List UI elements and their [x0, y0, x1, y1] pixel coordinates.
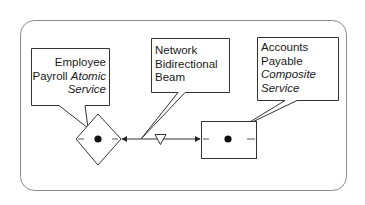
callout-line: Payable: [261, 55, 337, 69]
callout-line: Service: [261, 82, 337, 96]
callout-line: Payroll Atomic: [32, 70, 106, 84]
callout-line: Employee: [32, 56, 106, 70]
bidirectional-connector: [122, 135, 201, 145]
callout-line: Bidirectional: [155, 58, 229, 72]
callout-line: Accounts: [261, 41, 337, 55]
arrowhead-right-icon: [195, 136, 201, 142]
callout-line: Network: [155, 44, 229, 58]
callout-word: Payroll: [32, 70, 67, 82]
service-dot-icon: [224, 135, 231, 142]
callout-word-italic: Atomic: [71, 70, 106, 82]
arrowhead-left-icon: [122, 136, 128, 142]
callout-network-beam-text: Network Bidirectional Beam: [155, 44, 229, 85]
callout-line: Beam: [155, 71, 229, 85]
service-dot-icon: [94, 135, 101, 142]
callout-accounts-payable-text: Accounts Payable Composite Service: [261, 41, 337, 95]
diagram-canvas: [0, 0, 365, 205]
callout-line: Composite: [261, 68, 337, 82]
callout-employee-payroll-text: Employee Payroll Atomic Service: [32, 56, 106, 97]
callout-line: Service: [32, 83, 106, 97]
composite-service-rectangle: [202, 122, 257, 159]
